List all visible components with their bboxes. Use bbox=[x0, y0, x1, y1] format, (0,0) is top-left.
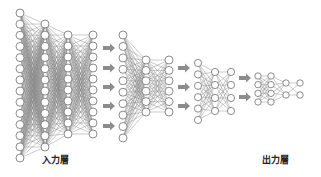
neuron-node bbox=[165, 98, 173, 106]
neuron-node bbox=[211, 94, 218, 101]
neuron-node bbox=[64, 130, 72, 138]
neuron-node bbox=[297, 80, 303, 86]
neuron-node bbox=[64, 75, 72, 83]
neuron-node bbox=[194, 71, 201, 78]
arrow-right-icon bbox=[103, 102, 115, 111]
neuron-node bbox=[89, 119, 97, 127]
neuron-node bbox=[268, 99, 274, 105]
arrow-right-icon bbox=[239, 93, 251, 102]
neuron-node bbox=[165, 66, 173, 74]
neuron-node bbox=[89, 64, 97, 72]
neuron-node bbox=[165, 77, 173, 85]
neuron-node bbox=[64, 31, 72, 39]
neuron-node bbox=[16, 121, 24, 129]
neuron-node bbox=[297, 92, 303, 98]
neuron-node bbox=[64, 42, 72, 50]
neuron-node bbox=[255, 90, 261, 96]
neuron-node bbox=[64, 53, 72, 61]
neuron-node bbox=[16, 42, 24, 50]
neuron-node bbox=[194, 105, 201, 112]
neuron-node bbox=[268, 81, 274, 87]
arrow-right-icon bbox=[178, 64, 190, 73]
neuron-node bbox=[268, 90, 274, 96]
neuron-node bbox=[268, 73, 274, 79]
neuron-node bbox=[142, 87, 150, 95]
neuron-node bbox=[16, 109, 24, 117]
neuron-node bbox=[255, 81, 261, 87]
neuron-node bbox=[194, 116, 201, 123]
neuron-node bbox=[41, 31, 49, 39]
neuron-node bbox=[194, 94, 201, 101]
neuron-node bbox=[16, 154, 24, 162]
neuron-node bbox=[64, 119, 72, 127]
neuron-node bbox=[194, 82, 201, 89]
neuron-node bbox=[41, 20, 49, 28]
neuron-node bbox=[64, 97, 72, 105]
neuron-node bbox=[64, 108, 72, 116]
network-graphic bbox=[0, 0, 321, 177]
neuron-node bbox=[211, 107, 218, 114]
neuron-node bbox=[41, 87, 49, 95]
neuron-node bbox=[142, 77, 150, 85]
neuron-node bbox=[16, 9, 24, 17]
neuron-node bbox=[119, 42, 127, 50]
neuron-node bbox=[89, 97, 97, 105]
arrow-right-icon bbox=[103, 44, 115, 53]
neuron-node bbox=[41, 143, 49, 151]
neuron-node bbox=[227, 81, 234, 88]
neuron-node bbox=[227, 68, 234, 75]
neuron-node bbox=[64, 64, 72, 72]
neuron-node bbox=[227, 107, 234, 114]
neuron-node bbox=[16, 98, 24, 106]
neuron-node bbox=[142, 108, 150, 116]
neuron-node bbox=[89, 31, 97, 39]
neuron-node bbox=[89, 130, 97, 138]
neuron-node bbox=[16, 31, 24, 39]
neuron-node bbox=[283, 92, 289, 98]
neuron-node bbox=[41, 109, 49, 117]
neuron-node bbox=[89, 75, 97, 83]
neuron-node bbox=[227, 94, 234, 101]
neuron-node bbox=[165, 108, 173, 116]
neural-network-diagram: 入力層 出力層 bbox=[0, 0, 321, 177]
neuron-node bbox=[16, 76, 24, 84]
arrow-right-icon bbox=[103, 64, 115, 73]
neuron-node bbox=[41, 54, 49, 62]
neuron-node bbox=[142, 98, 150, 106]
neuron-node bbox=[16, 132, 24, 140]
neuron-node bbox=[255, 73, 261, 79]
neuron-node bbox=[119, 111, 127, 119]
neuron-node bbox=[119, 65, 127, 73]
neuron-node bbox=[41, 132, 49, 140]
arrow-right-icon bbox=[178, 83, 190, 92]
neuron-node bbox=[16, 65, 24, 73]
neuron-node bbox=[165, 87, 173, 95]
neuron-node bbox=[41, 42, 49, 50]
neuron-node bbox=[255, 99, 261, 105]
neuron-node bbox=[16, 20, 24, 28]
neuron-node bbox=[194, 59, 201, 66]
neuron-node bbox=[64, 86, 72, 94]
neuron-node bbox=[142, 66, 150, 74]
neuron-node bbox=[142, 56, 150, 64]
neuron-node bbox=[283, 80, 289, 86]
neuron-node bbox=[119, 54, 127, 62]
neuron-node bbox=[41, 76, 49, 84]
neuron-node bbox=[89, 108, 97, 116]
neuron-node bbox=[119, 77, 127, 85]
neuron-node bbox=[119, 31, 127, 39]
neuron-node bbox=[89, 53, 97, 61]
neuron-node bbox=[16, 143, 24, 151]
neuron-node bbox=[119, 88, 127, 96]
output-layer-label: 出力層 bbox=[262, 153, 289, 166]
arrow-right-icon bbox=[239, 74, 251, 83]
neuron-node bbox=[41, 98, 49, 106]
arrow-right-icon bbox=[103, 83, 115, 92]
neuron-node bbox=[119, 100, 127, 108]
input-layer-label: 入力層 bbox=[42, 153, 69, 166]
neuron-node bbox=[16, 87, 24, 95]
neuron-node bbox=[211, 81, 218, 88]
neuron-node bbox=[211, 68, 218, 75]
arrow-right-icon bbox=[178, 102, 190, 111]
neuron-node bbox=[89, 42, 97, 50]
